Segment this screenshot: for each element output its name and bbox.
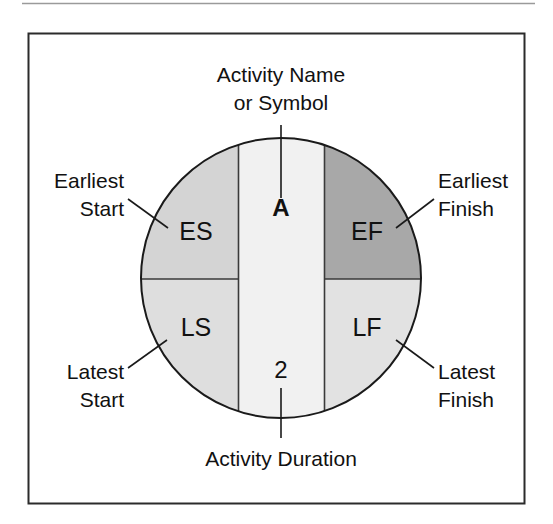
label-ls: LS — [181, 313, 212, 341]
callout-earliest-start-line2: Start — [80, 197, 125, 220]
callout-top-line1: Activity Name — [217, 63, 345, 86]
label-activity-name: A — [272, 194, 289, 221]
label-activity-duration: 2 — [274, 356, 287, 383]
callout-latest-start-line2: Start — [80, 388, 125, 411]
callout-latest-start-line1: Latest — [67, 360, 124, 383]
label-ef: EF — [351, 217, 383, 245]
callout-top-line2: or Symbol — [234, 91, 329, 114]
callout-earliest-start-line1: Earliest — [54, 169, 124, 192]
callout-earliest-finish-line2: Finish — [438, 197, 494, 220]
callout-latest-finish-line1: Latest — [438, 360, 495, 383]
label-es: ES — [179, 217, 212, 245]
callout-earliest-finish-line1: Earliest — [438, 169, 508, 192]
figure-stage: ES EF LS LF A 2 Activity Name or Symbol … — [0, 0, 553, 524]
activity-node-diagram: ES EF LS LF A 2 Activity Name or Symbol … — [0, 0, 553, 524]
label-lf: LF — [352, 313, 381, 341]
callout-bottom-line1: Activity Duration — [205, 447, 357, 470]
callout-latest-finish-line2: Finish — [438, 388, 494, 411]
